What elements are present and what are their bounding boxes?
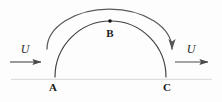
point-b-marker-dot	[108, 19, 112, 23]
ground-line-group	[11, 77, 212, 79]
label-point-a: A	[49, 81, 57, 93]
label-velocity-left: U	[21, 42, 30, 57]
physics-figure-flow-over-bump: U U A B C	[0, 0, 222, 102]
label-point-c: C	[163, 81, 171, 93]
label-point-b: B	[106, 27, 114, 39]
label-velocity-right: U	[187, 42, 196, 57]
